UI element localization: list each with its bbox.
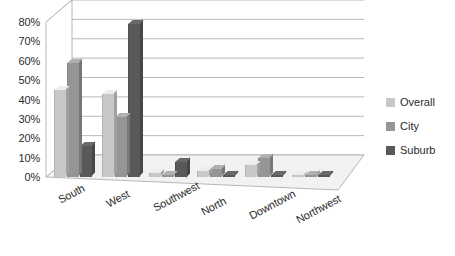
x-axis-tick-label: Northwest	[294, 192, 343, 225]
legend-swatch-icon	[386, 146, 395, 155]
bar	[162, 175, 173, 177]
bar	[318, 175, 329, 177]
bar	[292, 175, 303, 177]
bar	[305, 175, 316, 177]
bar	[271, 175, 282, 177]
legend-label: Overall	[400, 97, 435, 108]
bar-front-face	[318, 175, 330, 177]
legend-label: Suburb	[400, 145, 435, 156]
legend-item: Suburb	[386, 144, 455, 157]
bar	[223, 175, 234, 177]
bar-front-face	[271, 175, 283, 177]
bar-front-face	[54, 90, 66, 177]
bar-front-face	[162, 175, 174, 177]
bar	[245, 165, 256, 177]
bar-front-face	[305, 175, 317, 177]
bar-front-face	[149, 173, 161, 177]
bar-front-face	[223, 175, 235, 177]
legend-item: Overall	[386, 96, 455, 109]
bar	[149, 173, 160, 177]
bar-front-face	[175, 162, 187, 178]
legend-swatch-icon	[386, 98, 395, 107]
bar-front-face	[197, 171, 209, 177]
bar	[54, 90, 65, 177]
x-axis-tick-label: North	[199, 195, 228, 218]
chart-3d-column: 0%10%20%30%40%50%60%70%80% SouthWestSout…	[0, 0, 455, 256]
x-axis-tick-label: Southwest	[151, 179, 201, 213]
bar	[197, 171, 208, 177]
chart-legend: OverallCitySuburb	[386, 96, 455, 168]
bar	[102, 94, 113, 177]
legend-item: City	[386, 120, 455, 133]
x-axis-tick-label: West	[104, 188, 131, 210]
legend-label: City	[400, 121, 419, 132]
bar-front-face	[102, 94, 114, 177]
bar-front-face	[292, 175, 304, 177]
bar-front-face	[245, 165, 257, 177]
x-axis-tick-label: Downtown	[247, 187, 297, 221]
legend-swatch-icon	[386, 122, 395, 131]
x-axis-tick-label: South	[56, 182, 87, 206]
